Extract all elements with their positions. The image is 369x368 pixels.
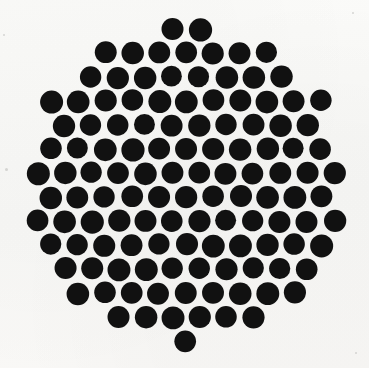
dot	[215, 210, 236, 231]
dot	[93, 235, 115, 257]
dot	[188, 114, 210, 136]
dot	[188, 210, 210, 232]
dot	[229, 138, 251, 160]
dot	[121, 282, 143, 304]
dot	[27, 210, 49, 232]
dot	[324, 162, 346, 184]
dot	[95, 89, 117, 111]
dot	[40, 91, 63, 114]
dot	[297, 162, 319, 184]
dot	[108, 258, 131, 281]
dot	[256, 282, 279, 305]
dot	[188, 66, 209, 87]
dot	[257, 138, 279, 160]
dot	[310, 90, 331, 111]
dot	[81, 257, 103, 279]
dot	[256, 186, 279, 209]
dot	[189, 258, 210, 279]
dot	[270, 65, 292, 87]
dot	[203, 89, 225, 111]
dot	[311, 185, 333, 207]
dot	[148, 233, 169, 254]
dot	[121, 42, 144, 65]
dot	[67, 91, 90, 114]
dot	[121, 234, 143, 256]
dot	[256, 42, 277, 63]
dot	[162, 162, 184, 184]
dot	[134, 114, 155, 135]
dot	[202, 235, 225, 258]
dot	[108, 209, 130, 231]
dot	[215, 163, 237, 185]
dot	[202, 138, 224, 160]
dot	[148, 186, 170, 208]
dot	[107, 162, 129, 184]
dot	[310, 234, 333, 257]
dot	[242, 163, 264, 185]
dot-group	[27, 18, 347, 352]
dot	[269, 258, 290, 279]
dot	[309, 138, 331, 160]
dot	[121, 185, 143, 207]
dot	[80, 66, 101, 87]
dot	[162, 306, 185, 329]
dot	[67, 283, 90, 306]
dot	[174, 330, 196, 352]
dot	[215, 114, 236, 135]
dot	[81, 162, 102, 183]
dot	[93, 186, 114, 207]
dot	[243, 257, 264, 278]
dot	[283, 138, 304, 159]
dot	[189, 306, 211, 328]
dot	[242, 306, 264, 328]
dot	[243, 114, 265, 136]
dot-disc-image	[0, 0, 369, 368]
dot	[148, 138, 170, 160]
dot	[256, 234, 278, 256]
dot	[27, 162, 50, 185]
dot	[202, 282, 224, 304]
dot	[95, 41, 117, 63]
dot	[161, 210, 183, 232]
dot	[175, 186, 197, 208]
dot	[135, 306, 158, 329]
dot	[67, 234, 88, 255]
dot	[94, 138, 117, 161]
dot	[229, 282, 252, 305]
dot	[283, 90, 305, 112]
dot	[268, 211, 290, 233]
dot	[175, 42, 197, 64]
dot	[53, 211, 76, 234]
dot	[229, 42, 251, 64]
dot	[54, 162, 76, 184]
dot	[202, 185, 224, 207]
dot	[175, 138, 197, 160]
dot	[162, 18, 184, 40]
dot	[243, 66, 266, 89]
dot	[324, 210, 346, 232]
dot-array	[0, 0, 369, 368]
dot	[176, 233, 198, 255]
dot	[242, 210, 263, 231]
dot	[148, 42, 170, 64]
dot	[66, 187, 88, 209]
dot	[175, 91, 198, 114]
dot	[295, 211, 317, 233]
dot	[283, 186, 306, 209]
dot	[81, 211, 104, 234]
dot	[230, 185, 252, 207]
dot	[147, 283, 169, 305]
dot	[40, 138, 62, 160]
dot	[189, 18, 212, 41]
dot	[269, 162, 291, 184]
dot	[161, 66, 182, 87]
dot	[202, 42, 224, 64]
dot	[188, 162, 210, 184]
dot	[67, 138, 88, 159]
dot	[134, 163, 157, 186]
dot	[135, 210, 157, 232]
dot	[94, 282, 116, 304]
dot	[121, 138, 144, 161]
dot	[107, 67, 129, 89]
dot	[161, 115, 183, 137]
